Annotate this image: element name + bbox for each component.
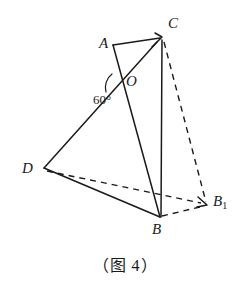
angle-label-60deg: 60° [93,93,111,106]
arrowhead-at-C [152,33,162,47]
edge-A-C [113,38,160,45]
vertex-label-a: A [99,36,108,51]
angle-arc-60 [105,74,112,92]
vertex-label-c: C [168,16,178,31]
edge-D-B [44,168,160,217]
vertex-label-b1: B1 [213,194,227,209]
vertex-label-d: D [22,161,33,176]
diagram-canvas [0,0,250,288]
edge-C-B1-dashed [164,42,206,202]
edge-D-B1-dashed [47,171,201,203]
figure-caption: （图 4） [0,252,250,276]
vertex-label-b1-base: B [213,193,222,209]
geometry-figure: A C O D B B1 60° （图 4） [0,0,250,288]
vertex-label-b1-subscript: 1 [222,200,227,211]
vertex-label-b: B [152,222,161,237]
edge-A-B [113,45,160,217]
edge-C-B [161,40,162,217]
vertex-label-o: O [126,74,137,89]
